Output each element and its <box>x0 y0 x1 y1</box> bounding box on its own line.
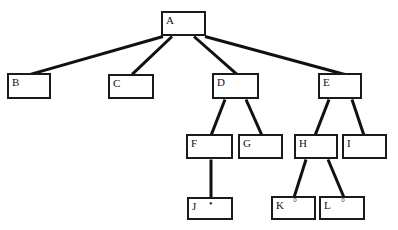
node-b: B <box>7 73 51 99</box>
node-g: G <box>238 134 283 159</box>
edge-a-b <box>30 35 164 76</box>
node-label: I <box>347 137 351 149</box>
node-d: D <box>212 73 259 99</box>
edge-d-g <box>245 98 264 135</box>
edge-h-l <box>327 158 346 197</box>
node-a: A <box>161 11 206 36</box>
edge-e-i <box>351 99 366 136</box>
node-label: K <box>276 199 284 211</box>
node-label: J <box>192 200 196 212</box>
node-h: H <box>294 134 338 159</box>
node-e: E <box>318 73 362 99</box>
node-f: F <box>186 134 233 159</box>
node-i: I <box>342 134 387 159</box>
edge-a-e <box>205 35 346 76</box>
node-label: C <box>113 77 120 89</box>
node-label: F <box>191 137 197 149</box>
node-k: K° <box>271 196 316 220</box>
edge-d-f <box>210 98 227 135</box>
node-label: D <box>217 76 225 88</box>
node-label: E <box>323 76 330 88</box>
edge-h-k <box>293 159 308 198</box>
open-circle-marker-icon: ° <box>293 197 297 209</box>
node-c: C <box>108 74 154 99</box>
edge-f-j <box>210 159 213 198</box>
node-label: A <box>166 14 174 26</box>
node-label: L <box>324 199 331 211</box>
tree-diagram: ABCDEFGHIJ•K°L° <box>0 0 398 230</box>
node-label: G <box>243 137 251 149</box>
filled-dot-marker-icon: • <box>209 198 213 210</box>
edge-e-h <box>314 98 331 135</box>
node-label: H <box>299 137 307 149</box>
node-l: L° <box>319 196 365 220</box>
node-j: J• <box>187 197 233 220</box>
node-label: B <box>12 76 19 88</box>
open-circle-marker-icon: ° <box>341 197 345 209</box>
